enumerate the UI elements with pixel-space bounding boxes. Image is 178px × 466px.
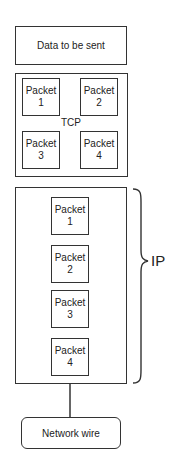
diagram-lines bbox=[0, 0, 178, 466]
network-wire-box: Network wire bbox=[21, 417, 121, 449]
ip-label: IP bbox=[151, 252, 165, 269]
network-wire-label: Network wire bbox=[42, 428, 100, 439]
ip-brace-icon bbox=[133, 189, 148, 383]
